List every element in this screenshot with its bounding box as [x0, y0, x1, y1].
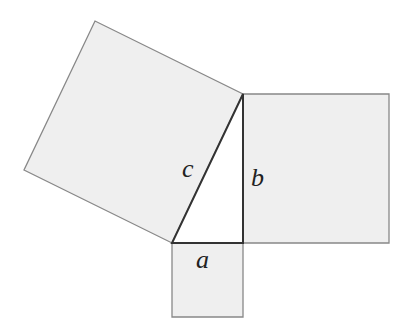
label-c: c — [182, 154, 194, 183]
pythagorean-diagram: a b c — [0, 0, 411, 335]
label-a: a — [196, 245, 209, 274]
square-b — [243, 94, 389, 243]
label-b: b — [251, 163, 264, 192]
